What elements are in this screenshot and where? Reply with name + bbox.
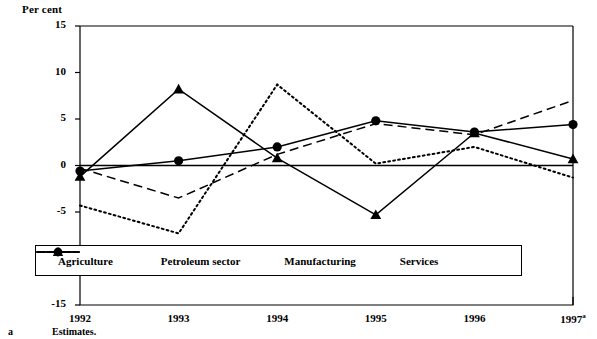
legend-label: Petroleum sector (161, 255, 241, 267)
data-point-marker-triangle (272, 153, 283, 163)
data-point-marker-circle (75, 166, 84, 175)
data-point-marker-circle (470, 127, 479, 136)
series-line-manufacturing (80, 100, 573, 198)
footnote: aEstimates. (8, 326, 96, 337)
legend-label: Manufacturing (284, 255, 356, 267)
data-point-marker-circle (568, 120, 577, 129)
legend-entry-services: Services (396, 255, 438, 267)
chart-legend: AgriculturePetroleum sectorManufacturing… (35, 245, 522, 276)
series-line-agriculture (80, 89, 573, 215)
footnote-text: Estimates. (52, 326, 96, 337)
data-point-marker-circle (174, 156, 183, 165)
data-point-marker-circle (371, 116, 380, 125)
series-line-services (80, 121, 573, 171)
footnote-mark: a (8, 326, 52, 337)
legend-label: Services (400, 255, 438, 267)
plot-area (0, 0, 597, 339)
series-line-petroleum-sector (80, 85, 573, 234)
legend-entry-petroleum-sector: Petroleum sector (157, 255, 241, 267)
data-point-marker-triangle (173, 84, 184, 94)
data-point-marker-circle (273, 142, 282, 151)
legend-entry-manufacturing: Manufacturing (280, 255, 356, 267)
legend-swatch-solid-circle (36, 246, 80, 258)
chart-container: Per cent 151050-5-10-15 1992199319941995… (0, 0, 597, 339)
